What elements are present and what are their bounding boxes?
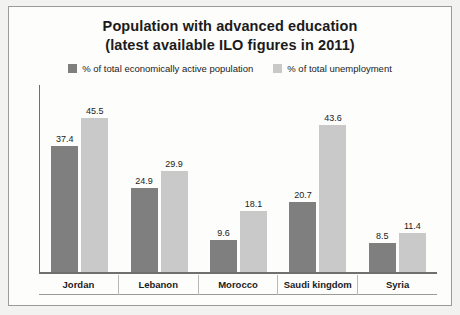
- x-label-3: Saudi kingdom: [277, 275, 357, 295]
- bar-1-3: [319, 125, 346, 272]
- bar-0-1: [131, 188, 158, 272]
- bar-value-0-2: 9.6: [217, 228, 230, 238]
- bar-0-0: [51, 146, 78, 272]
- bar-wrap-0-3: 20.7: [289, 85, 316, 272]
- bar-value-1-1: 29.9: [165, 159, 183, 169]
- bar-group-3: 20.7 43.6: [278, 85, 357, 272]
- bar-1-2: [240, 211, 267, 272]
- bar-1-0: [81, 118, 108, 272]
- bar-wrap-1-4: 11.4: [399, 85, 426, 272]
- bar-1-1: [161, 171, 188, 272]
- bar-0-3: [289, 202, 316, 272]
- bar-wrap-0-0: 37.4: [51, 85, 78, 272]
- chart-title: Population with advanced education: [9, 17, 451, 36]
- bar-value-0-0: 37.4: [56, 134, 74, 144]
- x-label-4: Syria: [357, 275, 437, 295]
- legend-label-series-1: % of total unemployment: [287, 63, 392, 74]
- bar-1-4: [399, 233, 426, 272]
- legend-label-series-0: % of total economically active populatio…: [82, 63, 253, 74]
- chart-legend: % of total economically active populatio…: [9, 63, 451, 74]
- bar-group-4: 8.5 11.4: [358, 85, 437, 272]
- bar-value-0-3: 20.7: [294, 190, 312, 200]
- bar-value-0-1: 24.9: [135, 176, 153, 186]
- bar-0-4: [369, 243, 396, 272]
- bar-value-1-0: 45.5: [86, 106, 104, 116]
- bar-wrap-1-0: 45.5: [81, 85, 108, 272]
- chart-title-block: Population with advanced education (late…: [9, 17, 451, 55]
- legend-swatch-icon-series-1: [273, 64, 282, 73]
- bar-value-0-4: 8.5: [376, 231, 389, 241]
- x-axis-labels: Jordan Lebanon Morocco Saudi kingdom Syr…: [39, 275, 437, 295]
- bars-container: 37.4 45.5 24.9 29.9: [40, 85, 437, 272]
- chart-frame: Population with advanced education (late…: [8, 6, 452, 306]
- bar-wrap-0-1: 24.9: [131, 85, 158, 272]
- bar-wrap-1-1: 29.9: [161, 85, 188, 272]
- bar-wrap-0-2: 9.6: [210, 85, 237, 272]
- chart-image: Population with advanced education (late…: [0, 0, 460, 315]
- chart-subtitle: (latest available ILO figures in 2011): [9, 36, 451, 55]
- x-label-0: Jordan: [39, 275, 118, 295]
- bar-group-2: 9.6 18.1: [199, 85, 278, 272]
- plot-area: 37.4 45.5 24.9 29.9: [39, 85, 437, 273]
- bar-wrap-0-4: 8.5: [369, 85, 396, 272]
- legend-swatch-icon-series-0: [68, 64, 77, 73]
- bar-value-1-4: 11.4: [404, 221, 421, 231]
- bar-value-1-2: 18.1: [245, 199, 263, 209]
- bar-group-0: 37.4 45.5: [40, 85, 119, 272]
- legend-item-series-1: % of total unemployment: [273, 63, 392, 74]
- legend-item-series-0: % of total economically active populatio…: [68, 63, 253, 74]
- bar-wrap-1-3: 43.6: [319, 85, 346, 272]
- bar-group-1: 24.9 29.9: [119, 85, 198, 272]
- x-label-1: Lebanon: [118, 275, 198, 295]
- bar-value-1-3: 43.6: [324, 113, 342, 123]
- x-label-2: Morocco: [198, 275, 278, 295]
- bar-0-2: [210, 240, 237, 272]
- bar-wrap-1-2: 18.1: [240, 85, 267, 272]
